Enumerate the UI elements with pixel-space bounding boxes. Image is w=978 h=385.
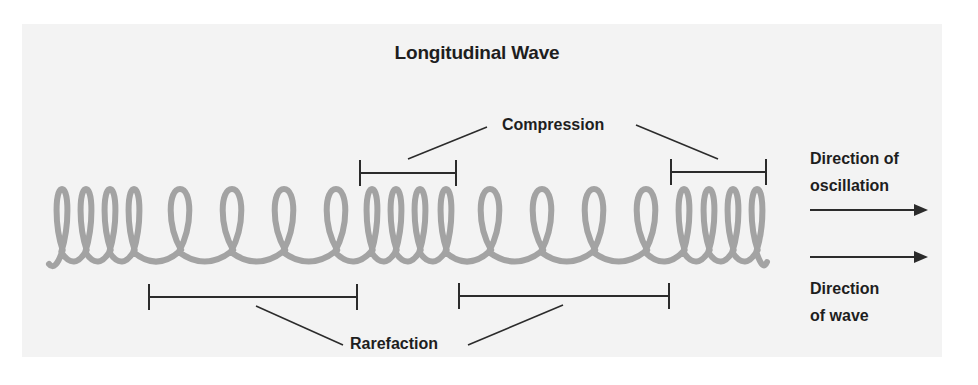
- compression-leader-left: [408, 127, 487, 159]
- direction-of-wave-line-1: Direction: [810, 275, 879, 302]
- compression-label: Compression: [502, 116, 604, 134]
- rarefaction-leader-right: [468, 305, 563, 345]
- direction-of-wave-line-2: of wave: [810, 302, 879, 329]
- direction-of-oscillation-arrow: [810, 204, 928, 216]
- direction-of-wave-label: Direction of wave: [810, 275, 879, 329]
- rarefaction-bracket-2: [459, 283, 669, 309]
- direction-of-oscillation-line-2: oscillation: [810, 172, 899, 199]
- direction-of-wave-arrow: [810, 251, 928, 263]
- rarefaction-bracket-1: [149, 284, 357, 310]
- compression-bracket-1: [360, 160, 456, 186]
- direction-of-oscillation-line-1: Direction of: [810, 145, 899, 172]
- direction-of-oscillation-label: Direction of oscillation: [810, 145, 899, 199]
- rarefaction-leader-left: [256, 306, 343, 345]
- diagram-title: Longitudinal Wave: [0, 42, 978, 64]
- spring-coil: [49, 189, 767, 266]
- compression-bracket-2: [671, 159, 766, 185]
- rarefaction-label: Rarefaction: [350, 335, 438, 353]
- compression-leader-right: [636, 125, 718, 159]
